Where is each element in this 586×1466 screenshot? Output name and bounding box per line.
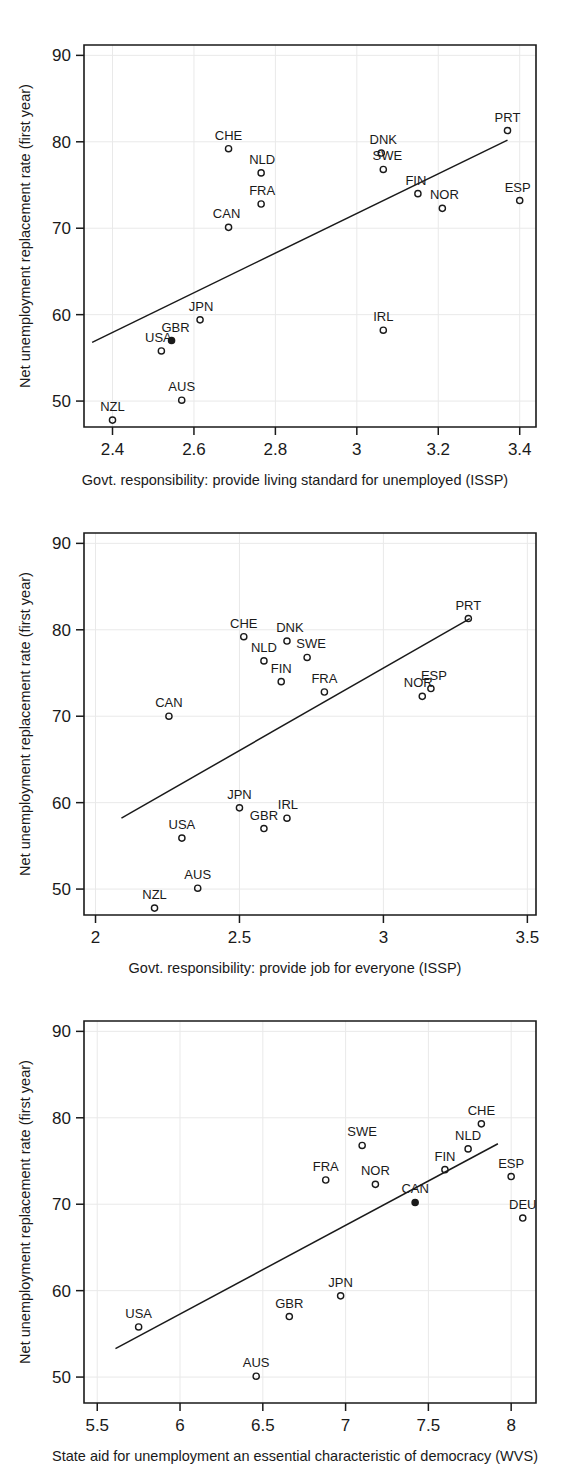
- data-point-usa: [179, 835, 185, 841]
- scatter-plot-1: 50607080902.42.62.833.23.4NZLAUSUSAGBRJP…: [0, 0, 586, 490]
- data-point-fra: [321, 689, 327, 695]
- y-tick-label: 70: [52, 1195, 71, 1214]
- x-tick-label: 3.4: [508, 440, 532, 459]
- point-label-che: CHE: [215, 128, 243, 143]
- data-point-aus: [253, 1373, 259, 1379]
- y-tick-label: 60: [52, 306, 71, 325]
- y-tick-label: 70: [52, 219, 71, 238]
- y-axis: 5060708090: [52, 534, 84, 899]
- x-axis: 22.533.5: [91, 915, 539, 947]
- data-point-che: [225, 146, 231, 152]
- data-point-usa: [136, 1324, 142, 1330]
- point-label-prt: PRT: [495, 110, 521, 125]
- x-tick-label: 6.5: [251, 1416, 275, 1435]
- data-points: NZLAUSUSAGBRIRLJPNCANNORESPFRAFINNLDSWED…: [142, 598, 481, 912]
- point-label-swe: SWE: [296, 636, 326, 651]
- y-tick-label: 90: [52, 46, 71, 65]
- point-label-gbr: GBR: [275, 1296, 303, 1311]
- plot-frame: [84, 533, 536, 915]
- plot-frame: [84, 1021, 536, 1403]
- point-label-gbr: GBR: [250, 808, 278, 823]
- x-tick-label: 3: [379, 928, 388, 947]
- point-label-fra: FRA: [311, 671, 337, 686]
- y-axis: 5060708090: [52, 1022, 84, 1387]
- data-point-nld: [258, 170, 264, 176]
- point-label-nzl: NZL: [142, 887, 167, 902]
- y-axis-title: Net unemployment replacement rate (first…: [17, 1060, 33, 1364]
- point-label-nzl: NZL: [100, 399, 125, 414]
- x-tick-label: 3.5: [516, 928, 540, 947]
- point-label-dnk: DNK: [370, 132, 398, 147]
- data-point-nld: [261, 658, 267, 664]
- data-point-can: [225, 224, 231, 230]
- data-point-prt: [504, 127, 510, 133]
- data-point-fin: [415, 191, 421, 197]
- scatter-plot-3: 50607080905.566.577.58AUSUSAGBRJPNDEUCAN…: [0, 976, 586, 1466]
- y-tick-label: 80: [52, 1109, 71, 1128]
- point-label-che: CHE: [468, 1103, 496, 1118]
- y-tick-label: 60: [52, 1282, 71, 1301]
- point-label-aus: AUS: [184, 867, 211, 882]
- regression-line: [115, 1144, 497, 1349]
- point-label-jpn: JPN: [227, 787, 252, 802]
- x-axis-title: State aid for unemployment an essential …: [52, 1448, 538, 1464]
- data-point-irl: [380, 327, 386, 333]
- point-label-can: CAN: [155, 695, 182, 710]
- data-point-gbr: [286, 1313, 292, 1319]
- point-label-swe: SWE: [347, 1124, 377, 1139]
- y-tick-label: 50: [52, 1368, 71, 1387]
- point-label-nld: NLD: [249, 152, 275, 167]
- point-label-fin: FIN: [405, 173, 426, 188]
- data-point-nor: [439, 205, 445, 211]
- x-tick-label: 2.5: [228, 928, 252, 947]
- x-tick-label: 8: [506, 1416, 515, 1435]
- point-label-fra: FRA: [249, 183, 275, 198]
- y-tick-label: 80: [52, 133, 71, 152]
- data-point-gbr: [261, 825, 267, 831]
- scatter-panel-2: 506070809022.533.5NZLAUSUSAGBRIRLJPNCANN…: [0, 488, 586, 978]
- data-point-swe: [304, 654, 310, 660]
- gridlines: [84, 533, 536, 915]
- y-tick-label: 80: [52, 621, 71, 640]
- point-label-usa: USA: [169, 817, 196, 832]
- data-point-nld: [465, 1146, 471, 1152]
- point-label-esp: ESP: [505, 180, 531, 195]
- x-axis-title: Govt. responsibility: provide living sta…: [82, 472, 508, 488]
- x-tick-label: 2.4: [101, 440, 125, 459]
- data-point-aus: [195, 885, 201, 891]
- point-label-prt: PRT: [455, 598, 481, 613]
- x-tick-label: 6: [175, 1416, 184, 1435]
- point-label-fra: FRA: [313, 1159, 339, 1174]
- data-point-aus: [179, 397, 185, 403]
- point-label-can: CAN: [401, 1181, 428, 1196]
- regression-line: [92, 140, 507, 342]
- data-point-fin: [278, 679, 284, 685]
- x-tick-label: 2: [91, 928, 100, 947]
- y-tick-label: 90: [52, 1022, 71, 1041]
- x-tick-label: 7: [341, 1416, 350, 1435]
- data-point-swe: [359, 1142, 365, 1148]
- scatter-plot-2: 506070809022.533.5NZLAUSUSAGBRIRLJPNCANN…: [0, 488, 586, 978]
- point-label-irl: IRL: [278, 797, 298, 812]
- scatter-panel-3: 50607080905.566.577.58AUSUSAGBRJPNDEUCAN…: [0, 976, 586, 1466]
- y-tick-label: 70: [52, 707, 71, 726]
- x-tick-label: 2.8: [264, 440, 288, 459]
- point-label-usa: USA: [125, 1306, 152, 1321]
- data-point-gbr: [168, 337, 174, 343]
- x-tick-label: 5.5: [85, 1416, 109, 1435]
- y-tick-label: 50: [52, 392, 71, 411]
- data-point-fra: [323, 1177, 329, 1183]
- point-label-jpn: JPN: [328, 1275, 353, 1290]
- point-label-gbr: GBR: [161, 320, 189, 335]
- x-tick-label: 3: [352, 440, 361, 459]
- gridlines: [84, 1021, 536, 1403]
- data-point-swe: [380, 166, 386, 172]
- data-point-che: [241, 634, 247, 640]
- data-point-nor: [372, 1181, 378, 1187]
- point-label-irl: IRL: [373, 309, 393, 324]
- y-tick-label: 60: [52, 794, 71, 813]
- data-point-deu: [520, 1215, 526, 1221]
- y-axis-title: Net unemployment replacement rate (first…: [17, 572, 33, 876]
- point-label-fin: FIN: [271, 661, 292, 676]
- data-point-fra: [258, 201, 264, 207]
